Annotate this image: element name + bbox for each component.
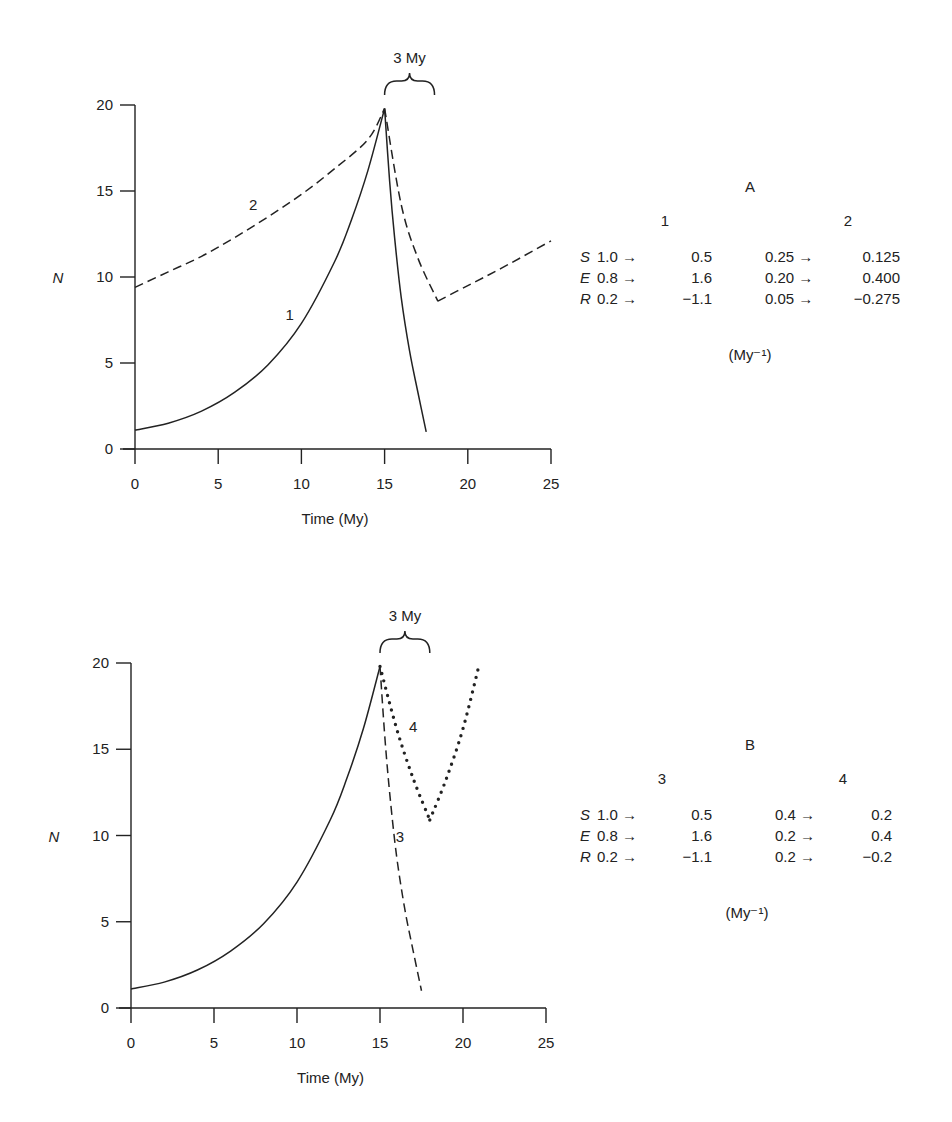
- column-header: 4: [823, 770, 863, 787]
- rate-from: 1.0 →: [597, 806, 637, 823]
- plot-a: 051015200510152025Time (My)N3 My12: [53, 49, 560, 527]
- rate-from: 0.2 →: [775, 848, 815, 865]
- annotation-label: 3 My: [393, 49, 426, 66]
- series-growth: [131, 666, 380, 989]
- x-tick-label: 20: [455, 1034, 472, 1051]
- rate-to: 0.2: [871, 806, 892, 823]
- plot-b: 051015200510152025Time (My)N3 My34: [49, 607, 555, 1086]
- x-tick-label: 10: [293, 475, 310, 492]
- y-axis-label: N: [53, 269, 64, 286]
- rate-to: −1.1: [682, 290, 712, 307]
- rate-to: −0.275: [854, 290, 900, 307]
- x-tick-label: 0: [131, 475, 139, 492]
- units-label: (My⁻¹): [712, 904, 782, 922]
- column-header: 2: [828, 212, 868, 229]
- x-tick-label: 5: [214, 475, 222, 492]
- y-tick-label: 20: [92, 654, 109, 671]
- rate-from: 1.0 →: [597, 248, 637, 265]
- y-tick-label: 5: [105, 354, 113, 371]
- x-tick-label: 20: [459, 475, 476, 492]
- rate-from: 0.25 →: [765, 248, 813, 265]
- column-header: 3: [642, 770, 682, 787]
- series-label: 2: [249, 196, 257, 213]
- series-4: [380, 663, 480, 820]
- y-tick-label: 0: [101, 999, 109, 1016]
- series-2: [135, 108, 551, 301]
- rate-to: 0.4: [871, 827, 892, 844]
- param-label: E: [580, 269, 590, 286]
- y-axis-label: N: [49, 828, 60, 845]
- y-tick-label: 0: [105, 440, 113, 457]
- rate-from: 0.2 →: [597, 290, 637, 307]
- rate-from: 0.2 →: [597, 848, 637, 865]
- param-label: S: [580, 248, 590, 265]
- x-axis-label: Time (My): [302, 510, 369, 527]
- rate-from: 0.2 →: [775, 827, 815, 844]
- x-tick-label: 15: [372, 1034, 389, 1051]
- rates-panel-a: A 1 2 S1.0 →0.50.25 →0.125E0.8 →1.60.20 …: [580, 178, 910, 368]
- param-label: E: [580, 827, 590, 844]
- units-label: (My⁻¹): [715, 346, 785, 364]
- rate-from: 0.8 →: [597, 269, 637, 286]
- y-tick-label: 15: [96, 182, 113, 199]
- rate-to: 0.5: [691, 806, 712, 823]
- rate-to: −1.1: [682, 848, 712, 865]
- rate-to: 0.400: [862, 269, 900, 286]
- rates-panel-b: B 3 4 S1.0 →0.50.4 →0.2E0.8 →1.60.2 →0.4…: [580, 736, 910, 926]
- rate-from: 0.05 →: [765, 290, 813, 307]
- rate-from: 0.4 →: [775, 806, 815, 823]
- param-label: R: [580, 290, 591, 307]
- x-tick-label: 10: [289, 1034, 306, 1051]
- x-tick-label: 0: [127, 1034, 135, 1051]
- rate-to: 1.6: [691, 827, 712, 844]
- series-1: [135, 108, 426, 431]
- x-tick-label: 15: [376, 475, 393, 492]
- x-tick-label: 25: [538, 1034, 555, 1051]
- column-header: 1: [645, 212, 685, 229]
- y-tick-label: 20: [96, 96, 113, 113]
- rate-from: 0.8 →: [597, 827, 637, 844]
- series-label: 1: [286, 306, 294, 323]
- rate-from: 0.20 →: [765, 269, 813, 286]
- x-axis-label: Time (My): [297, 1069, 364, 1086]
- figure-canvas: 051015200510152025Time (My)N3 My12 05101…: [0, 0, 952, 1122]
- param-label: R: [580, 848, 591, 865]
- panel-title: A: [730, 178, 770, 195]
- series-label: 4: [409, 718, 417, 735]
- brace-annotation: [385, 73, 435, 95]
- rate-to: 0.125: [862, 248, 900, 265]
- rate-to: 0.5: [691, 248, 712, 265]
- y-tick-label: 10: [96, 268, 113, 285]
- x-tick-label: 25: [543, 475, 560, 492]
- y-tick-label: 5: [101, 913, 109, 930]
- series-label: 3: [396, 828, 404, 845]
- x-tick-label: 5: [210, 1034, 218, 1051]
- y-tick-label: 10: [92, 827, 109, 844]
- panel-title: B: [730, 736, 770, 753]
- rate-to: −0.2: [862, 848, 892, 865]
- annotation-label: 3 My: [389, 607, 422, 624]
- param-label: S: [580, 806, 590, 823]
- brace-annotation: [380, 631, 430, 653]
- rate-to: 1.6: [691, 269, 712, 286]
- y-tick-label: 15: [92, 740, 109, 757]
